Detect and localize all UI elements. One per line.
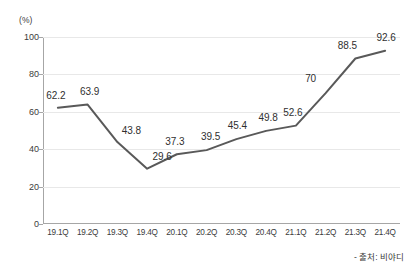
x-axis-tick-label: 21.4Q bbox=[374, 228, 395, 237]
x-axis-tick-label: 20.3Q bbox=[226, 228, 247, 237]
y-axis-tick-mark bbox=[39, 224, 43, 225]
plot-area bbox=[43, 37, 400, 224]
data-point-label: 49.8 bbox=[259, 111, 278, 122]
y-axis-tick-label: 40 bbox=[14, 144, 39, 154]
source-note: - 출처: 비야디 bbox=[354, 250, 404, 262]
data-point-label: 70 bbox=[305, 73, 316, 84]
x-axis-tick-label: 19.2Q bbox=[77, 228, 98, 237]
x-axis-tick-label: 19.4Q bbox=[136, 228, 157, 237]
x-axis-tick-label: 21.3Q bbox=[345, 228, 366, 237]
x-axis-tick-label: 21.1Q bbox=[285, 228, 306, 237]
line-series bbox=[43, 37, 400, 224]
x-axis-tick-label: 19.3Q bbox=[107, 228, 128, 237]
x-axis-tick-label: 19.1Q bbox=[47, 228, 68, 237]
data-point-label: 92.6 bbox=[377, 31, 396, 42]
series-line bbox=[58, 51, 385, 169]
x-axis-tick-label: 20.1Q bbox=[166, 228, 187, 237]
data-point-label: 63.9 bbox=[80, 85, 99, 96]
data-point-label: 37.3 bbox=[165, 136, 184, 147]
y-axis-tick-label: 0 bbox=[14, 219, 39, 229]
y-axis-tick-label: 100 bbox=[14, 32, 39, 42]
data-point-label: 62.2 bbox=[46, 89, 65, 100]
data-point-label: 43.8 bbox=[122, 125, 141, 136]
y-axis-tick-label: 20 bbox=[14, 182, 39, 192]
y-axis-tick-label: 80 bbox=[14, 69, 39, 79]
x-axis-tick-label: 20.2Q bbox=[196, 228, 217, 237]
data-point-label: 29.6 bbox=[153, 150, 172, 161]
chart-container: (%) 020406080100 62.263.943.829.637.339.… bbox=[0, 0, 416, 275]
y-axis-tick-labels: 020406080100 bbox=[14, 0, 39, 275]
data-point-label: 39.5 bbox=[201, 131, 220, 142]
data-point-label: 45.4 bbox=[228, 120, 247, 131]
x-axis-tick-label: 20.4Q bbox=[255, 228, 276, 237]
data-point-label: 52.6 bbox=[283, 106, 302, 117]
x-axis-tick-label: 21.2Q bbox=[315, 228, 336, 237]
y-axis-tick-label: 60 bbox=[14, 107, 39, 117]
data-point-label: 88.5 bbox=[338, 39, 357, 50]
